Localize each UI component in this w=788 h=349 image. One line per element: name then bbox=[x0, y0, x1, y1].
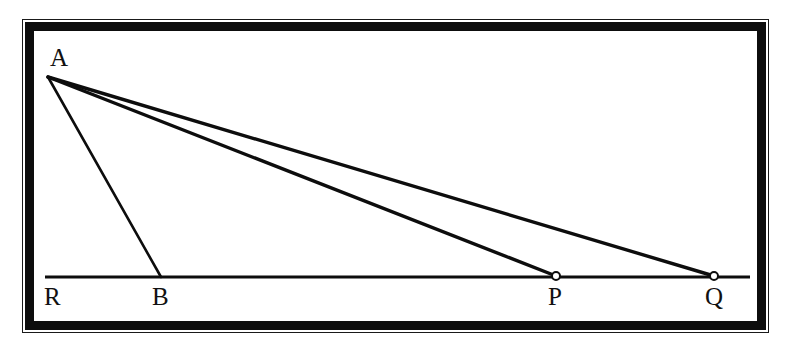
segment-AQ bbox=[48, 77, 714, 276]
geometry-diagram bbox=[0, 0, 788, 349]
diagram-canvas: A R B P Q bbox=[0, 0, 788, 349]
segment-AP bbox=[48, 77, 556, 276]
vertex-label-P: P bbox=[548, 284, 562, 309]
vertex-label-Q: Q bbox=[705, 284, 723, 309]
vertex-label-B: B bbox=[152, 284, 169, 309]
figure-page: A R B P Q bbox=[0, 0, 788, 349]
point-marker-P bbox=[552, 272, 560, 280]
vertex-label-A: A bbox=[50, 45, 68, 70]
point-marker-Q bbox=[710, 272, 718, 280]
vertex-label-R: R bbox=[44, 284, 61, 309]
